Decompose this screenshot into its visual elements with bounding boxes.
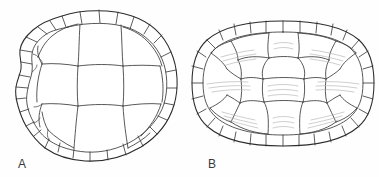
panel-b-carapace-outline bbox=[192, 21, 374, 146]
carapace-illustration: A B bbox=[0, 0, 379, 177]
panel-a-carapace-outline bbox=[16, 11, 178, 161]
panel-a-group bbox=[16, 10, 178, 161]
panel-a-label: A bbox=[18, 157, 26, 171]
panel-b-label: B bbox=[208, 157, 216, 171]
figure-canvas: A B bbox=[0, 0, 379, 177]
panel-b-group bbox=[192, 21, 374, 146]
